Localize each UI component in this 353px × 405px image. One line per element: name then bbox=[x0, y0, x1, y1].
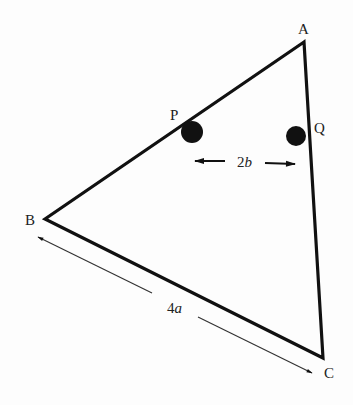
triangle-abc bbox=[45, 42, 323, 358]
ball-p bbox=[181, 121, 203, 143]
dimension-label-2b: 2b bbox=[237, 154, 253, 170]
diagram-canvas: A B C P Q 2b 4a bbox=[0, 0, 353, 405]
vertex-label-a: A bbox=[298, 21, 309, 37]
point-label-q: Q bbox=[314, 120, 325, 136]
point-label-p: P bbox=[170, 107, 178, 123]
arrow-2b-right bbox=[265, 163, 295, 164]
ball-q bbox=[286, 126, 306, 146]
vertex-label-b: B bbox=[25, 212, 35, 228]
triangle-diagram: A B C P Q 2b 4a bbox=[0, 0, 353, 405]
dimension-label-4a: 4a bbox=[167, 300, 182, 316]
vertex-label-c: C bbox=[324, 365, 334, 381]
